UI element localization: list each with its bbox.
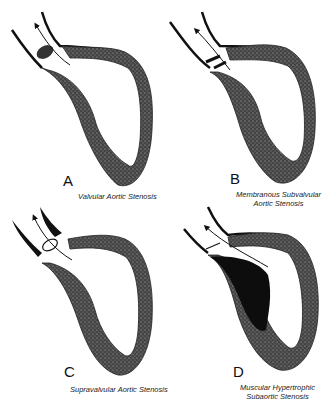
caption-d: Muscular Hypertrophic Subaortic Stenosis [240, 383, 315, 401]
heart-diagram-membranous [168, 0, 336, 204]
panel-d: D Muscular Hypertrophic Subaortic Stenos… [168, 205, 336, 409]
panel-letter-a: A [63, 172, 73, 189]
heart-diagram-muscular-hypertrophic [168, 205, 336, 409]
panel-letter-d: D [233, 363, 244, 380]
caption-a: Valvular Aortic Stenosis [78, 192, 157, 201]
caption-c: Supravalvular Aortic Stenosis [70, 385, 168, 394]
heart-diagram-valvular [0, 0, 168, 204]
heart-diagram-supravalvular [0, 205, 168, 409]
panel-c: C Supravalvular Aortic Stenosis [0, 205, 168, 409]
panel-b: B Membranous Subvalvular Aortic Stenosis [168, 0, 336, 204]
panel-letter-b: B [230, 170, 240, 187]
panel-a: A Valvular Aortic Stenosis [0, 0, 168, 204]
panel-letter-c: C [64, 363, 75, 380]
